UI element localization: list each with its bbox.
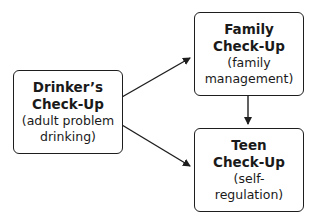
title-line: Teen	[213, 137, 285, 154]
sub-line: regulation)	[215, 187, 283, 203]
node-drinkers-checkup: Drinker’s Check-Up (adult problem drinki…	[13, 70, 123, 154]
sub-line: drinking)	[22, 129, 114, 145]
node-family-checkup: Family Check-Up (family management)	[194, 12, 304, 96]
title-line: Check-Up	[213, 154, 285, 171]
node-title: Teen Check-Up	[213, 137, 285, 171]
title-line: Family	[213, 21, 285, 38]
node-title: Family Check-Up	[213, 21, 285, 55]
node-subtitle: (self- regulation)	[215, 171, 283, 203]
sub-line: (adult problem	[22, 113, 114, 129]
title-line: Drinker’s	[32, 79, 104, 96]
node-teen-checkup: Teen Check-Up (self- regulation)	[194, 128, 304, 212]
node-title: Drinker’s Check-Up	[32, 79, 104, 113]
arrow-drinker-to-family	[122, 58, 190, 97]
arrow-drinker-to-teen	[122, 125, 190, 166]
sub-line: (family	[205, 55, 294, 71]
sub-line: (self-	[215, 171, 283, 187]
node-subtitle: (family management)	[205, 55, 294, 87]
sub-line: management)	[205, 71, 294, 87]
title-line: Check-Up	[213, 38, 285, 55]
title-line: Check-Up	[32, 96, 104, 113]
node-subtitle: (adult problem drinking)	[22, 113, 114, 145]
